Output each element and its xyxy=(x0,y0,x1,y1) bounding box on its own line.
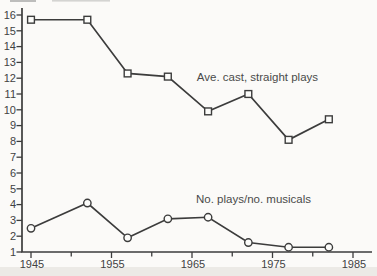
line-chart: 1234567891011121314151619451955196519751… xyxy=(0,0,377,276)
series-label: Ave. cast, straight plays xyxy=(197,71,318,83)
y-tick-label: 10 xyxy=(4,104,16,116)
square-marker xyxy=(285,136,292,143)
y-tick-label: 12 xyxy=(4,72,16,84)
y-tick-label: 2 xyxy=(10,230,16,242)
circle-marker xyxy=(84,199,91,206)
paper-background xyxy=(0,0,377,276)
circle-marker xyxy=(204,214,211,221)
chart-figure: 1234567891011121314151619451955196519751… xyxy=(0,0,377,276)
circle-marker xyxy=(124,234,131,241)
y-tick-label: 15 xyxy=(4,25,16,37)
y-tick-label: 16 xyxy=(4,9,16,21)
square-marker xyxy=(28,16,35,23)
x-tick-label: 1985 xyxy=(342,258,366,270)
x-tick-label: 1955 xyxy=(100,258,124,270)
y-tick-label: 7 xyxy=(10,151,16,163)
circle-marker xyxy=(245,239,252,246)
circle-marker xyxy=(27,225,34,232)
y-tick-label: 5 xyxy=(10,183,16,195)
y-tick-label: 9 xyxy=(10,119,16,131)
x-tick-label: 1945 xyxy=(20,258,44,270)
square-marker xyxy=(124,70,131,77)
square-marker xyxy=(84,16,91,23)
circle-marker xyxy=(285,244,292,251)
square-marker xyxy=(325,116,332,123)
x-tick-label: 1975 xyxy=(261,258,285,270)
y-tick-label: 6 xyxy=(10,167,16,179)
scan-artifact xyxy=(10,0,36,2)
series-label: No. plays/no. musicals xyxy=(196,193,311,205)
circle-marker xyxy=(325,244,332,251)
square-marker xyxy=(245,91,252,98)
y-tick-label: 1 xyxy=(10,246,16,258)
square-marker xyxy=(205,108,212,115)
x-tick-label: 1965 xyxy=(181,258,205,270)
y-tick-label: 13 xyxy=(4,56,16,68)
scan-artifact xyxy=(52,0,110,2)
square-marker xyxy=(164,73,171,80)
y-tick-label: 11 xyxy=(5,88,16,100)
circle-marker xyxy=(164,215,171,222)
y-tick-label: 3 xyxy=(10,214,16,226)
y-tick-label: 4 xyxy=(10,198,16,210)
y-tick-label: 8 xyxy=(10,135,16,147)
y-tick-label: 14 xyxy=(4,40,16,52)
